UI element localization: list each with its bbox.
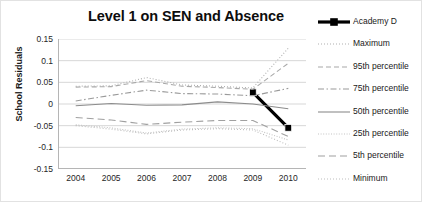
legend-item[interactable]: Minimum <box>317 172 421 186</box>
legend-line-sample <box>317 82 351 96</box>
y-axis-tick-label: -0.15 <box>13 165 53 174</box>
x-axis-tick-label: 2004 <box>56 173 96 183</box>
legend-label: 75th percentile <box>353 83 409 93</box>
x-axis-tick-label: 2009 <box>233 173 273 183</box>
chart-legend: Academy DMaximum95th percentile75th perc… <box>317 15 421 195</box>
legend-label: Maximum <box>353 38 390 48</box>
x-axis-tick-label: 2008 <box>197 173 237 183</box>
series-marker <box>285 124 292 131</box>
legend-item[interactable]: 25th percentile <box>317 127 421 141</box>
plot-svg <box>58 39 306 169</box>
legend-label: 5th percentile <box>353 150 404 160</box>
x-axis-tick-label: 2007 <box>162 173 202 183</box>
x-axis-tick-label: 2006 <box>127 173 167 183</box>
y-axis-tick-label: 0 <box>13 100 53 109</box>
legend-label: Minimum <box>353 173 387 183</box>
legend-item[interactable]: Maximum <box>317 37 421 51</box>
plot-area <box>58 39 306 169</box>
x-axis-tick-labels: 2004200520062007200820092010 <box>58 173 306 189</box>
legend-label: 95th percentile <box>353 61 409 71</box>
y-axis-tick-labels: 0.150.10.050-0.05-0.1-0.15 <box>9 39 53 169</box>
legend-item[interactable]: 5th percentile <box>317 149 421 163</box>
chart-title: Level 1 on SEN and Absence <box>61 8 311 24</box>
legend-item[interactable]: 50th percentile <box>317 105 421 119</box>
y-axis-tick-label: 0.05 <box>13 78 53 87</box>
y-axis-tick-label: 0.15 <box>13 35 53 44</box>
chart-figure: Level 1 on SEN and Absence School Residu… <box>0 0 422 202</box>
legend-item[interactable]: Academy D <box>317 15 421 29</box>
legend-line-sample <box>317 60 351 74</box>
legend-item[interactable]: 75th percentile <box>317 82 421 96</box>
series-line <box>76 125 289 140</box>
series-line <box>76 102 289 109</box>
legend-line-sample <box>317 127 351 141</box>
legend-line-sample <box>317 172 351 186</box>
y-axis-tick-label: -0.05 <box>13 122 53 131</box>
legend-line-sample <box>317 37 351 51</box>
series-marker <box>249 89 256 96</box>
legend-line-sample <box>317 15 351 29</box>
series-line <box>253 92 288 128</box>
y-axis-tick-label: 0.1 <box>13 57 53 66</box>
legend-item[interactable]: 95th percentile <box>317 60 421 74</box>
legend-line-sample <box>317 149 351 163</box>
legend-line-sample <box>317 105 351 119</box>
x-axis-tick-label: 2010 <box>268 173 308 183</box>
legend-label: Academy D <box>353 16 397 26</box>
legend-label: 25th percentile <box>353 128 409 138</box>
y-axis-tick-label: -0.1 <box>13 143 53 152</box>
series-line <box>76 117 289 136</box>
legend-label: 50th percentile <box>353 106 409 116</box>
x-axis-tick-label: 2005 <box>91 173 131 183</box>
